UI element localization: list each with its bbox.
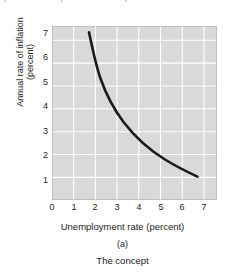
y-tick-2: 2 [34,151,48,160]
panel-letter: (a) [0,240,245,249]
y-tick-3: 3 [34,127,48,136]
phillips-curve-figure: Annual rate of inflation (percent) 7 6 5… [0,0,245,273]
x-tick-6: 6 [174,203,190,212]
plot-svg [52,26,217,200]
x-tick-3: 3 [109,203,125,212]
x-tick-7: 7 [196,203,212,212]
y-tick-4: 4 [34,102,48,111]
y-tick-7: 7 [34,29,48,38]
y-tick-5: 5 [34,78,48,87]
y-axis-ticks: 7 6 5 4 3 2 1 [34,0,48,273]
x-axis-label: Unemployment rate (percent) [0,222,245,232]
x-tick-4: 4 [131,203,147,212]
y-axis-label-line1: Annual rate of inflation [15,17,25,107]
x-tick-1: 1 [66,203,82,212]
x-tick-2: 2 [87,203,103,212]
plot-area [52,26,217,200]
gridlines-horizontal [52,40,217,177]
x-axis-ticks: 0 1 2 3 4 5 6 7 [0,203,245,217]
y-tick-1: 1 [34,176,48,185]
y-tick-6: 6 [34,53,48,62]
x-tick-5: 5 [153,203,169,212]
panel-title: The concept [0,256,245,266]
x-tick-0: 0 [44,203,60,212]
